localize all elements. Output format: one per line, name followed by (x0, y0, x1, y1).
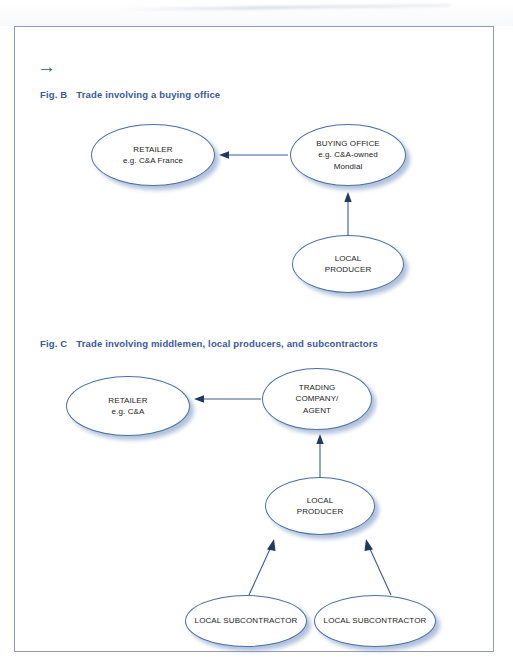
fig-c-label: Fig. C (40, 338, 67, 349)
node-b-local-producer: LOCAL PRODUCER (292, 235, 404, 293)
page-left-margin (0, 26, 14, 652)
node-c-trading-company-agent-line3: AGENT (296, 405, 339, 417)
node-b-buying-office-line3: Mondial (316, 161, 380, 173)
fig-b-heading: Fig. BTrade involving a buying office (40, 89, 220, 100)
node-c-local-subcontractor-left-label: LOCAL SUBCONTRACTOR (195, 615, 298, 627)
node-c-trading-company-agent-line1: TRADING (296, 382, 339, 394)
node-b-local-producer-line2: PRODUCER (325, 264, 372, 276)
node-b-retailer-line2: e.g. C&A France (123, 155, 183, 167)
connector-c-local-producer-to-trading-company (313, 433, 327, 479)
node-c-local-subcontractor-right-label: LOCAL SUBCONTRACTOR (324, 615, 427, 627)
node-c-local-producer-line2: PRODUCER (297, 506, 344, 518)
node-c-local-subcontractor-right: LOCAL SUBCONTRACTOR (314, 595, 436, 647)
node-c-local-producer: LOCAL PRODUCER (265, 477, 375, 535)
node-c-local-producer-line1: LOCAL (297, 495, 344, 507)
scan-streak (120, 4, 450, 11)
node-b-buying-office: BUYING OFFICE e.g. C&A-owned Mondial (290, 124, 406, 186)
node-c-retailer: RETAILER e.g. C&A (66, 376, 190, 436)
connector-c-subcontractor-right-to-local-producer (355, 535, 397, 597)
node-b-retailer-line1: RETAILER (123, 144, 183, 156)
fig-b-title: Trade involving a buying office (76, 89, 220, 100)
node-c-retailer-line1: RETAILER (108, 395, 147, 407)
node-b-local-producer-line1: LOCAL (325, 253, 372, 265)
fig-b-label: Fig. B (40, 89, 67, 100)
connector-c-trading-company-to-retailer (193, 392, 263, 406)
scan-artifact-top (0, 0, 513, 26)
connector-c-subcontractor-left-to-local-producer (243, 535, 285, 597)
node-c-trading-company-agent-line2: COMPANY/ (296, 393, 339, 405)
node-c-local-subcontractor-left: LOCAL SUBCONTRACTOR (185, 595, 307, 647)
fig-c-title: Trade involving middlemen, local produce… (76, 338, 378, 349)
node-b-buying-office-line1: BUYING OFFICE (316, 138, 380, 150)
node-c-trading-company-agent: TRADING COMPANY/ AGENT (262, 368, 372, 430)
node-b-buying-office-line2: e.g. C&A-owned (316, 149, 380, 161)
node-c-retailer-line2: e.g. C&A (108, 406, 147, 418)
arrow-right-icon: → (37, 57, 56, 76)
fig-c-heading: Fig. CTrade involving middlemen, local p… (40, 338, 378, 349)
connector-b-local-producer-to-buying-office (341, 191, 355, 237)
page-frame: → Fig. BTrade involving a buying office … (14, 26, 494, 652)
connector-b-buying-office-to-retailer (218, 148, 290, 162)
node-b-retailer: RETAILER e.g. C&A France (91, 124, 215, 186)
